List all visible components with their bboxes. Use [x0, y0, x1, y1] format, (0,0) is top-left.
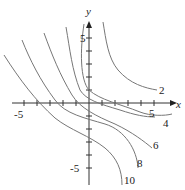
contour-level-2 — [103, 22, 157, 90]
contour-level-6 — [44, 33, 152, 148]
level-label-2: 2 — [159, 84, 165, 96]
contour-level-10 — [4, 55, 122, 185]
contour-plot: y x 5 -5 -5 2 4 5 6 8 10 — [0, 0, 185, 190]
level-label-10: 10 — [124, 174, 136, 186]
x-axis-label: x — [175, 98, 181, 110]
x-tick-label-neg5: -5 — [14, 108, 24, 120]
level-label-8: 8 — [137, 157, 143, 169]
level-label-6: 6 — [153, 139, 159, 151]
y-axis-label: y — [85, 5, 91, 17]
y-tick-label-5: 5 — [80, 32, 86, 44]
level-label-4: 4 — [163, 117, 169, 129]
level-label-5: 5 — [149, 107, 155, 119]
y-axis-arrow-icon — [86, 21, 92, 28]
y-tick-label-neg5: -5 — [70, 162, 80, 174]
